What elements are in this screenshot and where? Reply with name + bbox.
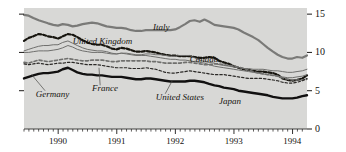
x-tick-label-1993: 1993 [212, 137, 256, 146]
chart-figure: 15 10 5 0 1990 1991 1992 1993 1994 Italy… [0, 0, 346, 152]
series-label-japan: Japan [219, 97, 241, 106]
y-tick-label-0: 0 [315, 124, 320, 134]
y-tick-label-5: 5 [315, 86, 320, 96]
series-label-germany: Germany [36, 90, 70, 99]
series-label-united-states: United States [156, 93, 204, 102]
x-tick-label-1994: 1994 [270, 137, 314, 146]
y-tick-label-10: 10 [315, 47, 325, 57]
chart-canvas [0, 0, 346, 152]
x-tick-label-1992: 1992 [153, 137, 197, 146]
series-label-france: France [92, 84, 118, 93]
x-tick-label-1991: 1991 [95, 137, 139, 146]
series-label-italy: Italy [153, 23, 170, 32]
series-label-united-kingdom: United Kingdom [73, 37, 133, 46]
y-tick-label-15: 15 [315, 9, 325, 19]
x-tick-label-1990: 1990 [36, 137, 80, 146]
series-label-canada: Canada [190, 55, 219, 64]
